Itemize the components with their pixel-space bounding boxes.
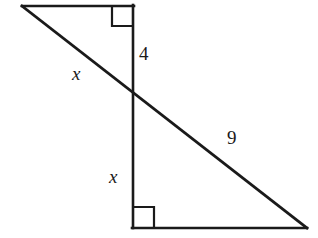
segment-label-9: 9 bbox=[227, 128, 237, 147]
segment-label-x-lower: x bbox=[109, 167, 117, 186]
segment-label-x-upper: x bbox=[72, 64, 80, 83]
bottom-left-angle-marker bbox=[133, 207, 154, 228]
geometry-canvas bbox=[0, 0, 318, 238]
top-right-angle-marker bbox=[112, 6, 133, 26]
segment-label-4: 4 bbox=[139, 44, 149, 63]
geometry-figure: 4 x x 9 bbox=[0, 0, 318, 238]
transversal-diagonal bbox=[22, 6, 307, 228]
